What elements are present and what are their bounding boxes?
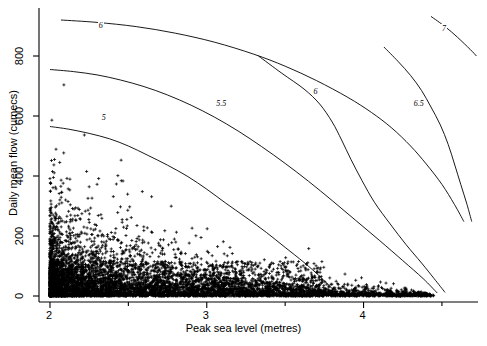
x-tick-label: 2 xyxy=(46,309,52,321)
chart-figure: 2340200400600800 55.5666.57 Peak sea lev… xyxy=(0,0,487,346)
contour-line xyxy=(259,56,446,292)
contour-label: 6.5 xyxy=(413,99,425,108)
x-tick-label: 4 xyxy=(360,309,366,321)
contour-label: 6 xyxy=(98,21,104,30)
contour-label: 6 xyxy=(313,87,319,96)
x-axis-label: Peak sea level (metres) xyxy=(0,322,487,334)
y-axis-label: Daily mean flow (cumecs) xyxy=(7,3,19,303)
x-tick-label: 3 xyxy=(203,309,209,321)
contour-label: 5.5 xyxy=(215,99,227,108)
contour-line xyxy=(50,70,437,294)
contour-label: 5 xyxy=(101,113,107,122)
y-axis-label-wrapper: Daily mean flow (cumecs) xyxy=(8,0,24,310)
contour-line xyxy=(61,20,464,222)
contour-line xyxy=(431,16,476,56)
contour-line xyxy=(384,47,472,222)
contour-label: 7 xyxy=(441,24,447,33)
scatter-contour-plot xyxy=(0,0,487,346)
